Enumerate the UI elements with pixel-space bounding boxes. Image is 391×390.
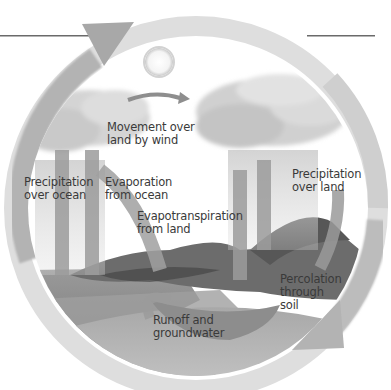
sun-icon	[144, 47, 174, 77]
water-cycle-diagram: Movement over land by wind Precipitation…	[0, 0, 391, 390]
label-line: groundwater	[153, 327, 224, 340]
label-line: from land	[137, 223, 243, 236]
top-rule-right	[307, 35, 375, 37]
label-line: over ocean	[24, 189, 93, 202]
label-percolation-through-soil: Percolation through soil	[280, 273, 342, 312]
top-rule-left	[0, 35, 90, 37]
label-line: over land	[292, 181, 361, 194]
label-evaporation-from-ocean: Evaporation from ocean	[105, 176, 172, 202]
label-line: soil	[280, 299, 342, 312]
label-line: land by wind	[107, 134, 195, 147]
label-movement-over-land-by-wind: Movement over land by wind	[107, 121, 195, 147]
label-precipitation-over-ocean: Precipitation over ocean	[24, 176, 93, 202]
label-line: from ocean	[105, 189, 172, 202]
label-runoff-and-groundwater: Runoff and groundwater	[153, 314, 224, 340]
label-precipitation-over-land: Precipitation over land	[292, 168, 361, 194]
label-evapotranspiration-from-land: Evapotranspiration from land	[137, 210, 243, 236]
